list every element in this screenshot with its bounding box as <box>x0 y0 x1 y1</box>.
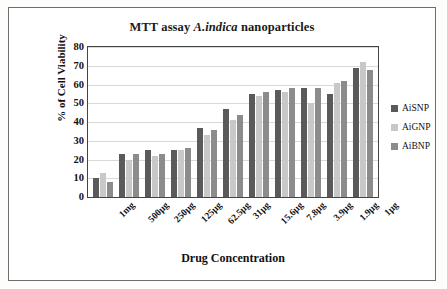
chart-title: MTT assay A.indica nanoparticles <box>9 20 435 35</box>
y-tick-label: 80 <box>74 41 85 52</box>
bar <box>93 178 99 197</box>
bar <box>133 154 139 197</box>
x-tick-label: 31µg <box>251 200 272 221</box>
bar <box>185 148 191 197</box>
x-tick-label: 250µg <box>172 200 196 224</box>
bar-group <box>301 47 321 197</box>
bar-group <box>327 47 347 197</box>
bar <box>275 90 281 197</box>
bar <box>249 94 255 197</box>
x-tick-label: 15.6µg <box>279 200 305 226</box>
bar-group <box>249 47 269 197</box>
bar-groups <box>88 47 378 197</box>
legend-label: AiGNP <box>402 122 431 132</box>
x-tick-label: 1mg <box>117 200 136 219</box>
y-tick-label: 30 <box>74 134 85 145</box>
bar <box>308 103 314 197</box>
bar <box>211 130 217 198</box>
x-axis-title: Drug Concentration <box>87 251 379 266</box>
x-tick-label: 1.9µg <box>358 200 381 223</box>
bar <box>256 96 262 197</box>
bar <box>301 88 307 197</box>
bar <box>334 83 340 197</box>
x-tick-label: 3.9µg <box>331 200 354 223</box>
x-tick-label: 500µg <box>146 200 170 224</box>
chart-title-species: A.indica <box>194 20 238 34</box>
bar <box>159 154 165 197</box>
y-tick-label: 20 <box>74 153 85 164</box>
x-tick-label: 125µg <box>199 200 223 224</box>
bar <box>107 182 113 197</box>
bar <box>145 150 151 197</box>
bar <box>223 109 229 197</box>
x-tick-label: 1µg <box>382 200 400 218</box>
legend-swatch <box>391 105 398 112</box>
bar-group <box>145 47 165 197</box>
legend-item: AiBNP <box>391 141 447 151</box>
x-tick-label: 62.5µg <box>226 200 252 226</box>
bar-group <box>93 47 113 197</box>
bar <box>119 154 125 197</box>
bar <box>282 92 288 197</box>
bar <box>341 81 347 197</box>
y-tick-label: 10 <box>74 172 85 183</box>
plot-area <box>87 46 379 198</box>
bar <box>263 92 269 197</box>
legend-swatch <box>391 143 398 150</box>
bar-group <box>275 47 295 197</box>
bar <box>171 150 177 197</box>
x-tick-label: 7.8µg <box>305 200 328 223</box>
y-tick-label: 50 <box>74 97 85 108</box>
y-tick-label: 60 <box>74 78 85 89</box>
bar <box>197 128 203 197</box>
legend-label: AiBNP <box>402 141 430 151</box>
figure-page: MTT assay A.indica nanoparticles % of Ce… <box>0 0 447 289</box>
figure-frame: MTT assay A.indica nanoparticles % of Ce… <box>8 7 436 281</box>
bar-group <box>119 47 139 197</box>
legend-item: AiGNP <box>391 122 447 132</box>
bar-group <box>353 47 373 197</box>
chart-title-suffix: nanoparticles <box>238 20 315 34</box>
y-axis-tick-labels: 01020304050607080 <box>57 40 84 204</box>
y-tick-label: 0 <box>79 191 84 202</box>
bar <box>289 88 295 197</box>
bar <box>237 115 243 198</box>
bar-group <box>223 47 243 197</box>
bar <box>230 120 236 197</box>
legend-item: AiSNP <box>391 103 447 113</box>
bar <box>100 173 106 197</box>
bar <box>315 88 321 197</box>
bar <box>204 135 210 197</box>
bar <box>360 62 366 197</box>
bar <box>353 68 359 197</box>
legend-label: AiSNP <box>402 103 429 113</box>
legend: AiSNPAiGNPAiBNP <box>391 103 447 160</box>
y-tick-label: 70 <box>74 59 85 70</box>
y-tick-label: 40 <box>74 116 85 127</box>
bar <box>126 160 132 198</box>
bar <box>152 156 158 197</box>
bar-group <box>171 47 191 197</box>
chart-title-prefix: MTT assay <box>130 20 194 34</box>
legend-swatch <box>391 124 398 131</box>
bar <box>367 70 373 198</box>
x-axis-tick-labels: 1mg500µg250µg125µg62.5µg31µg15.6µg7.8µg3… <box>87 200 379 246</box>
bar <box>327 94 333 197</box>
bar-group <box>197 47 217 197</box>
bar <box>178 150 184 197</box>
